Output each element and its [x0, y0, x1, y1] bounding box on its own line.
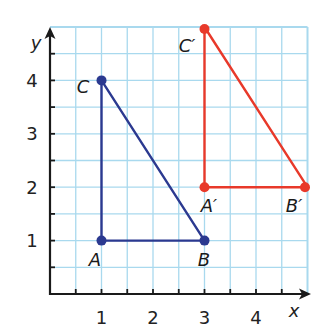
coordinate-plane: 1 2 3 4 1 2 3 4 x y A B C A′ B′ C′	[0, 0, 322, 332]
y-tick-label-1: 1	[26, 230, 37, 251]
x-tick-label-2: 2	[147, 307, 158, 328]
label-a: A	[88, 249, 101, 270]
x-tick-label-1: 1	[96, 307, 107, 328]
point-b	[200, 236, 210, 246]
point-a	[97, 236, 107, 246]
axes	[49, 36, 303, 295]
point-b-prime	[300, 182, 310, 192]
y-tick-label-2: 2	[26, 177, 37, 198]
point-c-prime	[200, 24, 210, 34]
label-c: C	[77, 76, 90, 97]
label-c-prime: C′	[179, 35, 196, 56]
y-axis-label: y	[30, 32, 42, 53]
y-tick-label-4: 4	[26, 70, 37, 91]
point-c	[97, 75, 107, 85]
x-tick-label-3: 3	[199, 307, 210, 328]
x-axis-label: x	[288, 300, 300, 321]
triangle-abc: A B C	[77, 75, 210, 270]
label-b-prime: B′	[286, 195, 302, 216]
label-a-prime: A′	[200, 195, 217, 216]
label-b: B	[198, 249, 210, 270]
y-tick-label-3: 3	[26, 123, 37, 144]
point-a-prime	[200, 182, 210, 192]
x-tick-label-4: 4	[250, 307, 261, 328]
